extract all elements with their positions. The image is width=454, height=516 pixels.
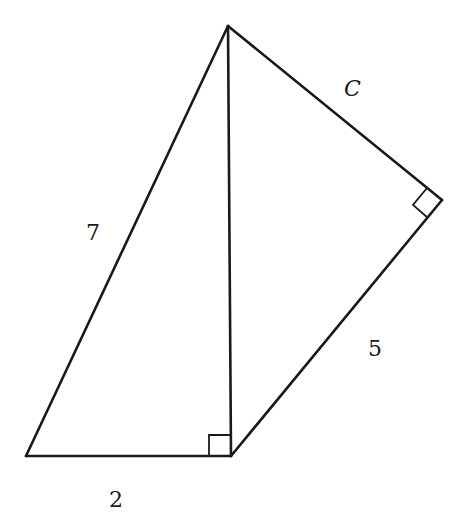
geometry-diagram: 7 2 5 C bbox=[0, 0, 454, 516]
side-C bbox=[228, 26, 442, 200]
shared-vertical-side bbox=[228, 26, 231, 456]
label-2: 2 bbox=[109, 487, 123, 512]
label-C: C bbox=[344, 76, 361, 101]
right-angle-marker-right bbox=[413, 188, 428, 218]
label-7: 7 bbox=[86, 220, 100, 245]
right-angle-marker-bottom bbox=[209, 435, 231, 456]
side-5 bbox=[231, 200, 442, 456]
label-5: 5 bbox=[368, 336, 382, 361]
side-7 bbox=[26, 26, 228, 456]
